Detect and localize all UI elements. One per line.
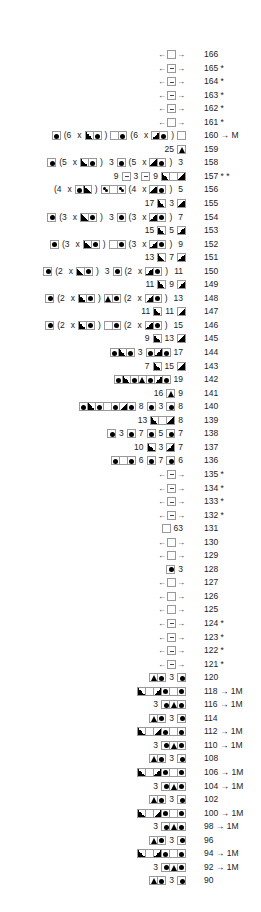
chart-row: ←→166 [0, 48, 261, 62]
arrow-left-icon: ← [157, 605, 167, 614]
dot-cell-icon [113, 294, 121, 303]
row-symbols: 676 [111, 454, 186, 467]
row-number: 108 [204, 752, 218, 765]
arrow-left-icon: ← [157, 497, 167, 506]
chart-row: (2x)(2x)13148 [0, 292, 261, 306]
row-number: 128 [204, 563, 218, 576]
row-symbols: (3x)(3x)9 [50, 238, 186, 251]
empty-cell-icon [167, 592, 176, 601]
dot-cell-icon [117, 213, 126, 222]
row-count: 11 [171, 267, 186, 276]
row-count: 7 [142, 362, 153, 371]
dot-cell-icon [166, 565, 175, 574]
falling-triangle-cell-icon [154, 768, 162, 777]
row-count: (2 [122, 267, 136, 276]
row-number: 159 [204, 143, 218, 156]
row-count: 3 [175, 158, 186, 167]
row-count: ) [95, 321, 104, 330]
empty-cell-icon [109, 240, 118, 249]
row-symbols: (2x)(2x)13 [45, 292, 186, 305]
falling-triangle-cell-icon [177, 253, 186, 262]
minus-cell-icon [167, 497, 176, 506]
row-count: x [65, 185, 75, 194]
empty-cell-icon [177, 131, 186, 140]
arrow-left-icon: ← [157, 91, 167, 100]
dot-cell-icon [96, 402, 104, 411]
falling-triangle-cell-icon [177, 226, 186, 235]
dot-cell-icon [158, 795, 166, 804]
row-symbols: 939 [111, 170, 186, 183]
dot-cell-icon [158, 185, 166, 194]
chart-row: 119149 [0, 278, 261, 292]
chart-row: 138139 [0, 414, 261, 428]
chart-row: 3128 [0, 563, 261, 577]
empty-cell-icon [110, 185, 118, 194]
minus-cell-icon [167, 104, 176, 113]
arrow-right-icon: → [176, 77, 186, 86]
row-count: 3 [106, 213, 117, 222]
rising-triangle-cell-icon [161, 172, 170, 181]
row-count: x [135, 267, 145, 276]
row-count: 16 [151, 389, 166, 398]
chart-row: ←→163 * [0, 89, 261, 103]
row-symbols: 155 [142, 224, 186, 237]
dot-cell-icon [161, 741, 170, 750]
row-count: 3 [166, 795, 177, 804]
row-symbols: ←→ [157, 617, 186, 630]
row-symbols: (2x)(2x)15 [45, 319, 186, 332]
row-symbols: 119 [142, 278, 186, 291]
triangle-cell-icon [170, 822, 178, 831]
dot-cell-icon [178, 822, 186, 831]
falling-triangle-cell-icon [154, 809, 162, 818]
row-number: 165 * [204, 62, 224, 75]
rising-triangle-cell-icon [76, 267, 85, 276]
row-symbols: ←→ [157, 75, 186, 88]
dot-cell-icon [127, 429, 136, 438]
row-symbols [137, 807, 186, 820]
triangle-cell-icon [149, 714, 158, 723]
chart-row: 3757138 [0, 427, 261, 441]
chart-row: 676136 [0, 454, 261, 468]
empty-cell-icon [167, 118, 176, 127]
dot-cell-icon [119, 131, 127, 140]
row-symbols: ←→ [157, 644, 186, 657]
row-count: 3 [150, 782, 161, 791]
dot-cell-icon [117, 158, 126, 167]
dot-cell-icon [166, 456, 175, 465]
row-count: ) [162, 267, 171, 276]
falling-triangle-cell-icon [155, 375, 163, 384]
chart-row: 3104 → 1M [0, 780, 261, 794]
dot-cell-icon [47, 213, 56, 222]
dot-cell-icon [113, 267, 122, 276]
row-count: 17 [171, 348, 186, 357]
row-number: 90 [204, 874, 213, 887]
row-number: 141 [204, 387, 218, 400]
row-symbols [137, 725, 186, 738]
row-count: x [134, 294, 144, 303]
row-number: 134 * [204, 482, 224, 495]
row-count: 8 [175, 416, 186, 425]
dot-cell-icon [161, 822, 170, 831]
falling-triangle-cell-icon [145, 267, 154, 276]
row-count: 8 [175, 402, 186, 411]
row-count: 19 [171, 375, 186, 384]
triangle-cell-icon [170, 782, 178, 791]
row-count: x [139, 185, 149, 194]
dot-cell-icon [79, 402, 88, 411]
dot-cell-icon [47, 158, 56, 167]
row-number: 129 [204, 549, 218, 562]
row-count: ) [92, 185, 101, 194]
row-number: 120 [204, 671, 218, 684]
chart-row: 3108 [0, 752, 261, 766]
rising-triangle-cell-icon [119, 348, 127, 357]
chart-row: 390 [0, 874, 261, 888]
empty-cell-icon [104, 402, 112, 411]
arrow-left-icon: ← [157, 660, 167, 669]
chart-row: ←→122 * [0, 644, 261, 658]
empty-cell-icon [167, 50, 176, 59]
row-number: 161 * [204, 116, 224, 129]
row-count: 7 [175, 213, 186, 222]
dot-cell-icon [89, 158, 97, 167]
falling-triangle-cell-icon [149, 213, 158, 222]
dot-cell-icon [128, 456, 136, 465]
